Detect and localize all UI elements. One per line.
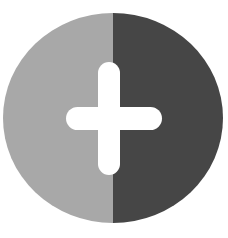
icon-canvas: [0, 0, 228, 238]
plus-icon-horizontal-bar: [66, 107, 162, 130]
split-circle-plus-icon: [0, 0, 228, 238]
